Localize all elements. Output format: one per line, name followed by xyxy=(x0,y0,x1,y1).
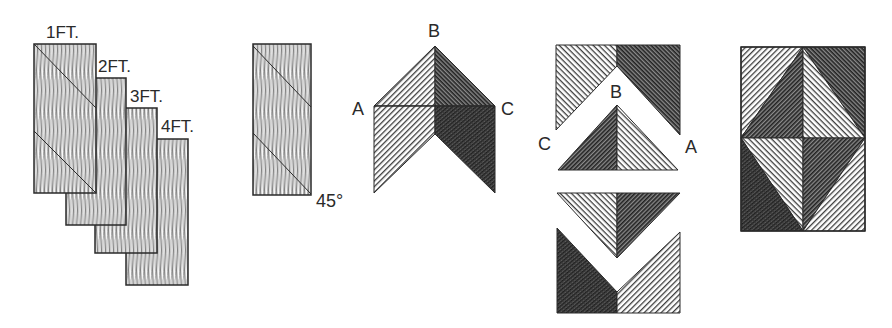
strip-label-4ft: 4FT. xyxy=(161,118,194,135)
strip-label-3ft: 3FT. xyxy=(130,88,163,105)
strip-1ft xyxy=(34,44,96,193)
chevron-label-c: C xyxy=(501,100,514,118)
chevron-label-b: B xyxy=(428,22,440,40)
step-finished-block xyxy=(741,47,865,231)
chevron-dark-top xyxy=(435,46,495,106)
rearrange-label-a: A xyxy=(685,138,697,156)
angle-label: 45° xyxy=(316,192,343,210)
rearrange-label-c: C xyxy=(538,135,551,153)
strip-label-2ft: 2FT. xyxy=(98,58,131,75)
chevron-light-top xyxy=(374,46,435,106)
rearrange-label-b: B xyxy=(610,83,622,101)
chevron-light-bottom xyxy=(374,106,435,193)
single-strip xyxy=(253,44,311,195)
strip-label-1ft: 1FT. xyxy=(46,24,79,41)
step-chevron-assembly xyxy=(374,46,495,193)
step-cut-45-angle xyxy=(253,44,311,195)
chevron-dark-bottom xyxy=(435,106,495,193)
quilt-diagram-canvas xyxy=(0,0,892,328)
chevron-label-a: A xyxy=(352,100,364,118)
step-cut-strips xyxy=(34,44,188,285)
